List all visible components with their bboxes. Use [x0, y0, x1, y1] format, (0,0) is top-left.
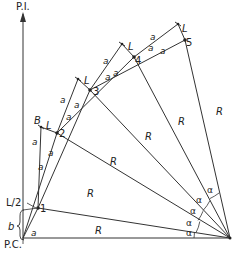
- svg-text:a: a: [32, 137, 38, 147]
- radius-lines: [38, 40, 230, 238]
- svg-text:a: a: [66, 112, 72, 122]
- point-label-5: 5: [186, 37, 192, 48]
- radius-label: R: [87, 188, 94, 199]
- svg-text:α: α: [207, 185, 213, 195]
- pc-label: P.C.: [4, 239, 22, 250]
- radius-label: R: [110, 156, 117, 167]
- curve-layout-diagram: P.I. P.C. R R R R R R: [0, 0, 235, 258]
- svg-text:α: α: [186, 218, 192, 228]
- svg-text:α: α: [196, 195, 202, 205]
- radius-label: R: [145, 131, 152, 142]
- radius-label: R: [95, 225, 102, 236]
- l-label: L: [128, 41, 134, 52]
- pi-arrow-icon: [20, 12, 26, 22]
- pi-label: P.I.: [16, 1, 30, 12]
- svg-text:a: a: [148, 43, 154, 53]
- half-l-label: L/2: [6, 197, 21, 208]
- svg-text:α: α: [190, 206, 196, 216]
- center-point: [229, 237, 232, 240]
- radius-label: R: [178, 116, 185, 127]
- point-label-1: 1: [40, 203, 46, 214]
- svg-text:α: α: [186, 228, 192, 238]
- svg-text:a: a: [60, 95, 66, 105]
- svg-text:a: a: [74, 100, 80, 110]
- svg-text:a: a: [48, 148, 54, 158]
- l-label: L: [84, 75, 90, 86]
- svg-text:a: a: [38, 162, 44, 172]
- svg-text:a: a: [31, 228, 37, 238]
- point-label-3: 3: [93, 86, 99, 97]
- svg-text:a: a: [105, 72, 111, 82]
- l-label: L: [46, 120, 52, 131]
- diagram-svg: P.I. P.C. R R R R R R: [0, 0, 235, 258]
- alpha-labels: α α α α α: [186, 185, 213, 238]
- radius-label: R: [216, 106, 223, 117]
- svg-text:a: a: [150, 32, 156, 42]
- point-label-4: 4: [135, 55, 141, 66]
- svg-text:a: a: [160, 46, 166, 56]
- l-label: L: [182, 23, 188, 34]
- b-label: b: [8, 221, 14, 232]
- b-point-label: B: [34, 115, 41, 126]
- svg-text:a: a: [103, 56, 109, 66]
- svg-text:a: a: [113, 68, 119, 78]
- point-label-2: 2: [59, 128, 65, 139]
